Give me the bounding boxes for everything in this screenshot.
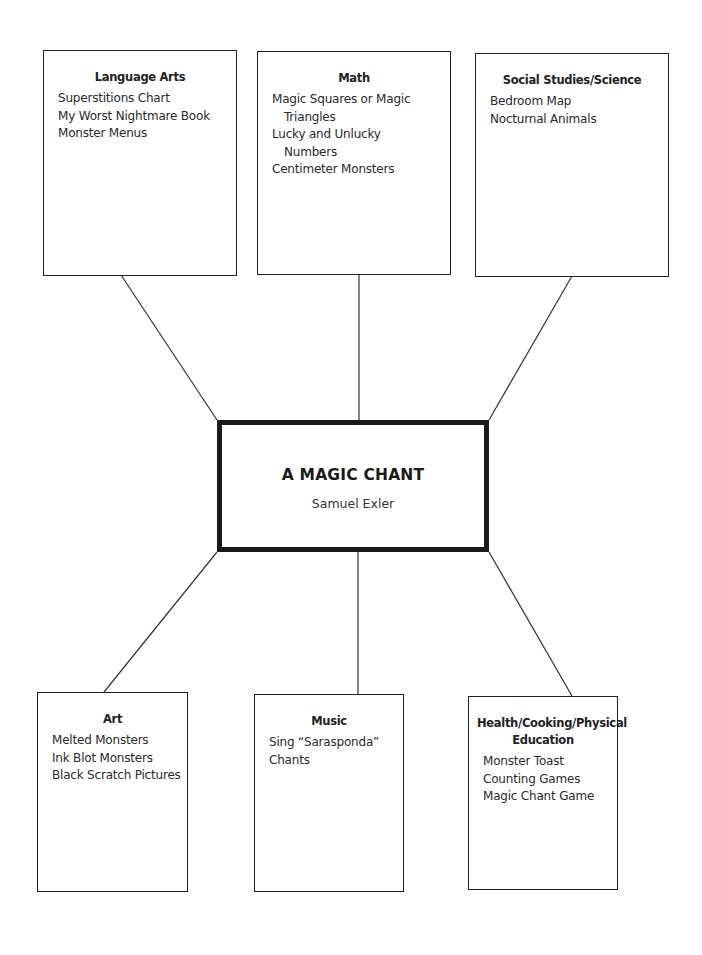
central-topic: A MAGIC CHANT Samuel Exler [217,420,489,552]
branch-title: Language Arts [44,69,236,86]
activity-text: Counting Games [483,771,617,789]
activity-text: Ink Blot Monsters [52,750,187,768]
activity-text: Monster Toast [483,753,617,771]
connector-health [489,552,572,696]
branch-items: Magic Squares or MagicTrianglesLucky and… [258,91,450,179]
branch-art: Art Melted MonstersInk Blot MonstersBlac… [37,692,188,892]
activity-item: My Worst Nightmare Book [58,108,236,126]
activity-text: Superstitions Chart [58,90,236,108]
activity-text: Melted Monsters [52,732,187,750]
branch-social-studies-science: Social Studies/Science Bedroom MapNoctur… [475,53,669,277]
branch-items: Monster ToastCounting GamesMagic Chant G… [469,753,617,806]
branch-items: Melted MonstersInk Blot MonstersBlack Sc… [38,732,187,785]
activity-text: Black Scratch Pictures [52,767,187,785]
activity-item: Centimeter Monsters [272,161,450,179]
branch-title: Music [255,713,403,730]
activity-text: Sing “Sarasponda” [269,734,403,752]
activity-item: Nocturnal Animals [490,111,668,129]
activity-item: Ink Blot Monsters [52,750,187,768]
activity-item: Magic Chant Game [483,788,617,806]
branch-health-cooking-pe: Health/Cooking/Physical Education Monste… [468,696,618,890]
activity-text: Magic Chant Game [483,788,617,806]
activity-item: Lucky and UnluckyNumbers [272,126,450,161]
branch-title: Health/Cooking/Physical Education [469,715,617,749]
activity-text: Lucky and Unlucky [272,126,450,144]
branch-items: Bedroom MapNocturnal Animals [476,93,668,128]
connector-social-studies [489,276,572,420]
activity-item: Sing “Sarasponda” [269,734,403,752]
activity-item: Counting Games [483,771,617,789]
activity-item: Superstitions Chart [58,90,236,108]
activity-text: Bedroom Map [490,93,668,111]
branch-language-arts: Language Arts Superstitions ChartMy Wors… [43,50,237,276]
activity-item: Melted Monsters [52,732,187,750]
activity-text-continued: Triangles [272,109,450,127]
activity-item: Chants [269,752,403,770]
activity-text: My Worst Nightmare Book [58,108,236,126]
activity-item: Black Scratch Pictures [52,767,187,785]
connector-language-arts [121,275,217,420]
activity-item: Monster Menus [58,125,236,143]
branch-music: Music Sing “Sarasponda”Chants [254,694,404,892]
activity-text: Magic Squares or Magic [272,91,450,109]
branch-title: Social Studies/Science [476,72,668,89]
branch-items: Superstitions ChartMy Worst Nightmare Bo… [44,90,236,143]
activity-text: Centimeter Monsters [272,161,450,179]
branch-title: Art [38,711,187,728]
activity-item: Monster Toast [483,753,617,771]
central-title: A MAGIC CHANT [222,466,484,484]
activity-text: Nocturnal Animals [490,111,668,129]
central-author: Samuel Exler [222,496,484,511]
activity-text: Chants [269,752,403,770]
activity-text: Monster Menus [58,125,236,143]
connector-art [104,552,217,692]
activity-item: Magic Squares or MagicTriangles [272,91,450,126]
branch-math: Math Magic Squares or MagicTrianglesLuck… [257,51,451,275]
branch-items: Sing “Sarasponda”Chants [255,734,403,769]
activity-item: Bedroom Map [490,93,668,111]
activity-text-continued: Numbers [272,144,450,162]
branch-title: Math [258,70,450,87]
